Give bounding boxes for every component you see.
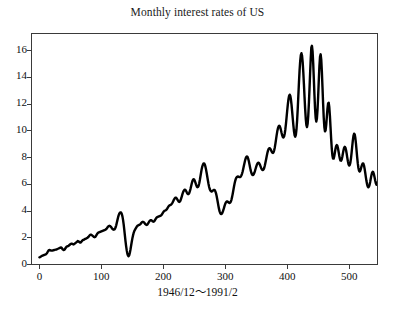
plot-area [31,33,378,265]
y-tick-label: 6 [5,176,27,188]
y-tick-label: 8 [5,150,27,162]
x-tick-label: 300 [205,270,245,282]
x-tick-label: 0 [19,270,59,282]
series-line-plot [32,34,377,264]
x-tick-mark [101,265,102,269]
y-tick-label: 14 [5,69,27,81]
x-tick-mark [287,265,288,269]
x-tick-label: 500 [329,270,369,282]
chart-title: Monthly interest rates of US [0,6,395,18]
y-tick-label: 4 [5,203,27,215]
y-tick-label: 10 [5,123,27,135]
chart-figure: Monthly interest rates of US 16141210864… [0,0,395,310]
x-tick-mark [225,265,226,269]
y-tick-label: 2 [5,230,27,242]
x-tick-label: 200 [143,270,183,282]
x-axis-label: 1946/12〜1991/2 [0,283,395,299]
x-tick-mark [163,265,164,269]
x-tick-mark [39,265,40,269]
x-tick-label: 100 [81,270,121,282]
x-tick-mark [349,265,350,269]
y-tick-label: 12 [5,96,27,108]
x-tick-label: 400 [267,270,307,282]
interest-rate-line [39,46,377,258]
y-tick-label: 0 [5,257,27,269]
y-tick-label: 16 [5,43,27,55]
